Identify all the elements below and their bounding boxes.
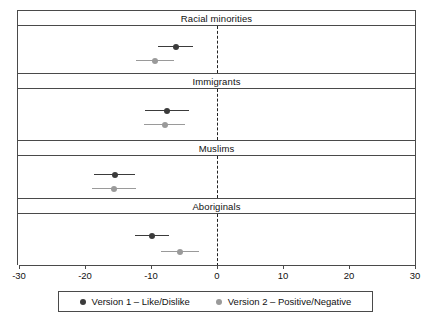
estimate-row bbox=[18, 170, 415, 179]
estimate-point bbox=[152, 58, 158, 64]
panel-strip-label: Aboriginals bbox=[192, 201, 240, 212]
zero-reference-line bbox=[217, 214, 218, 266]
estimate-point bbox=[177, 249, 183, 255]
legend-dot-icon bbox=[80, 299, 86, 305]
legend-entry[interactable]: Version 1 – Like/Dislike bbox=[80, 296, 190, 307]
legend-entry[interactable]: Version 2 – Positive/Negative bbox=[216, 296, 352, 307]
estimate-point bbox=[112, 172, 118, 178]
estimate-row bbox=[18, 184, 415, 193]
x-axis-tick bbox=[415, 265, 416, 269]
x-axis-tick-label: 10 bbox=[263, 270, 303, 281]
estimate-point bbox=[173, 44, 179, 50]
panel-strip-label: Muslims bbox=[199, 143, 235, 154]
x-axis-tick bbox=[283, 265, 284, 269]
panel-stack: Racial minoritiesImmigrantsMuslimsAborig… bbox=[17, 10, 416, 265]
x-axis-tick bbox=[217, 265, 218, 269]
estimate-row bbox=[18, 231, 415, 240]
x-axis-tick-label: -10 bbox=[131, 270, 171, 281]
x-axis-tick-label: -20 bbox=[65, 270, 105, 281]
x-axis-tick-label: -30 bbox=[0, 270, 39, 281]
panel-strip-label: Racial minorities bbox=[181, 13, 252, 24]
coefficient-plot: Racial minoritiesImmigrantsMuslimsAborig… bbox=[0, 0, 431, 318]
estimate-point bbox=[164, 108, 170, 114]
panel-strip-label: Immigrants bbox=[193, 76, 241, 87]
panel-strip-racial-minorities: Racial minorities bbox=[18, 11, 415, 26]
x-axis-tick bbox=[349, 265, 350, 269]
estimate-point bbox=[111, 186, 117, 192]
estimate-point bbox=[149, 233, 155, 239]
x-axis-tick bbox=[85, 265, 86, 269]
panel-body-aboriginals bbox=[18, 214, 415, 266]
panel-strip-immigrants: Immigrants bbox=[18, 74, 415, 89]
legend: Version 1 – Like/DislikeVersion 2 – Posi… bbox=[58, 291, 373, 312]
estimate-row bbox=[18, 247, 415, 256]
x-axis: -30-20-100102030 bbox=[0, 265, 431, 287]
estimate-row bbox=[18, 56, 415, 65]
legend-label: Version 1 – Like/Dislike bbox=[92, 296, 190, 307]
x-axis-tick bbox=[19, 265, 20, 269]
panel-body-racial-minorities bbox=[18, 26, 415, 74]
x-axis-tick bbox=[151, 265, 152, 269]
x-axis-tick-label: 30 bbox=[395, 270, 431, 281]
legend-label: Version 2 – Positive/Negative bbox=[228, 296, 352, 307]
estimate-row bbox=[18, 120, 415, 129]
panel-body-muslims bbox=[18, 156, 415, 199]
panel-strip-muslims: Muslims bbox=[18, 141, 415, 156]
estimate-row bbox=[18, 106, 415, 115]
legend-dot-icon bbox=[216, 299, 222, 305]
estimate-row bbox=[18, 42, 415, 51]
x-axis-tick-label: 20 bbox=[329, 270, 369, 281]
estimate-point bbox=[162, 122, 168, 128]
x-axis-tick-label: 0 bbox=[197, 270, 237, 281]
panel-strip-aboriginals: Aboriginals bbox=[18, 199, 415, 214]
panel-body-immigrants bbox=[18, 89, 415, 141]
